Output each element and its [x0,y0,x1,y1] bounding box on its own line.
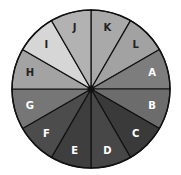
segment-label-e: E [71,145,78,156]
segment-label-a: A [148,67,156,78]
segment-label-f: F [43,128,50,139]
segment-label-d: D [103,145,111,156]
wheel-hub [88,86,95,93]
segment-label-k: K [103,22,112,33]
segment-label-g: G [26,100,34,111]
segment-wheel: KLABCDEFGHIJ [0,0,181,175]
segment-label-c: C [132,128,139,139]
segment-label-j: J [72,22,77,33]
segment-label-i: I [44,39,48,50]
segment-label-b: B [148,100,156,111]
segment-label-l: L [133,39,140,50]
segment-label-h: H [26,67,34,78]
